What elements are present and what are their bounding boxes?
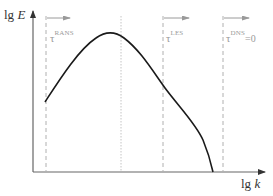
energy-spectrum-curve: [45, 33, 213, 172]
rans-superscript: RANS: [54, 29, 73, 37]
rans-label: τRANS: [50, 33, 74, 44]
y-axis-label-var: E: [17, 7, 25, 22]
les-label: τLES: [166, 33, 183, 44]
y-axis-label-prefix: lg: [4, 7, 14, 22]
x-axis-label: lg k: [241, 177, 260, 190]
dns-label: τDNS=0: [226, 33, 256, 44]
energy-spectrum-diagram: lg E lg k τRANS τLES τDNS=0: [0, 0, 273, 196]
les-superscript: LES: [170, 29, 183, 37]
x-axis-label-var: k: [254, 176, 260, 191]
dns-superscript: DNS: [230, 29, 245, 37]
x-axis-label-prefix: lg: [241, 176, 251, 191]
y-axis-label: lg E: [4, 8, 25, 21]
dns-suffix: =0: [245, 33, 256, 44]
